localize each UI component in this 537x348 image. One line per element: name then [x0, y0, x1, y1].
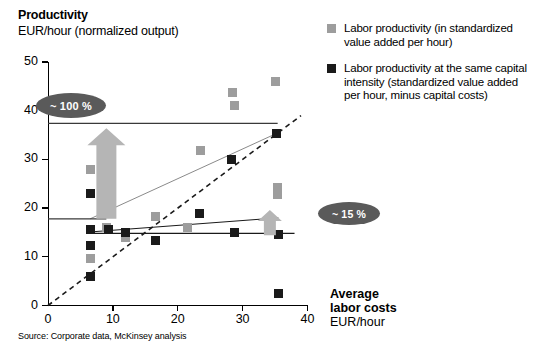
callout-productivity-gap-100: ~ 100 %	[36, 93, 106, 118]
legend: Labor productivity (in standardized valu…	[327, 22, 532, 116]
legend-item: Labor productivity (in standardized valu…	[327, 22, 532, 49]
chart-root: Productivity EUR/hour (normalized output…	[0, 0, 537, 348]
legend-label: Labor productivity (in standardized valu…	[344, 22, 532, 49]
gap-arrow-100	[87, 128, 125, 219]
legend-swatch-icon	[327, 64, 336, 73]
legend-item: Labor productivity at the same capital i…	[327, 62, 532, 103]
gap-arrow-15	[258, 210, 282, 235]
legend-label: Labor productivity at the same capital i…	[344, 62, 532, 103]
callout-productivity-gap-15: ~ 15 %	[318, 202, 380, 225]
legend-swatch-icon	[327, 24, 336, 33]
